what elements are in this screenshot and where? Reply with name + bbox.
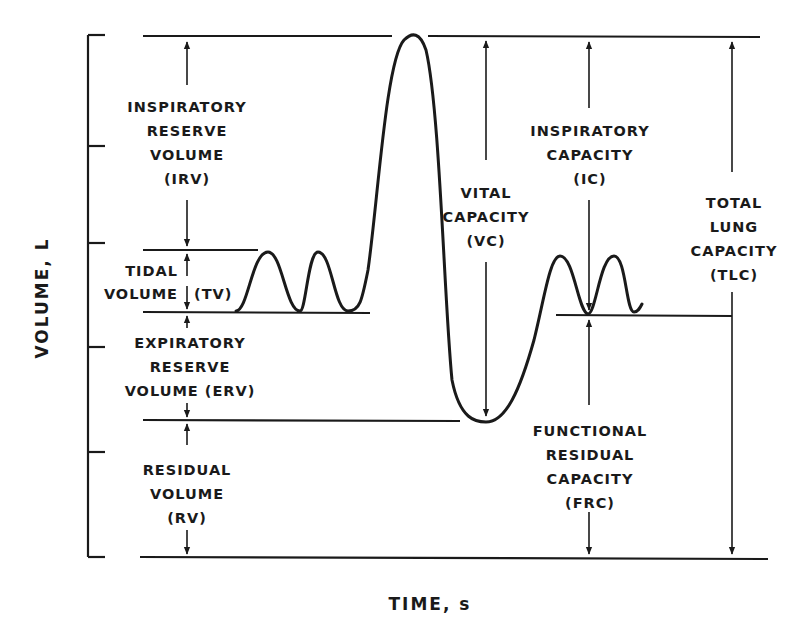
svg-text:RESIDUAL: RESIDUAL [143,462,232,478]
svg-text:VOLUME: VOLUME [150,147,224,163]
svg-text:LUNG: LUNG [710,219,759,235]
ic-label: INSPIRATORY CAPACITY (IC) [530,123,649,187]
svg-text:(FRC): (FRC) [565,495,615,511]
svg-text:VOLUME (ERV): VOLUME (ERV) [125,383,256,399]
svg-text:RESERVE: RESERVE [150,359,231,375]
svg-text:VITAL: VITAL [461,185,512,201]
svg-text:(IC): (IC) [573,171,606,187]
spirogram-curve [236,35,642,422]
svg-text:RESERVE: RESERVE [147,123,228,139]
svg-text:(TV): (TV) [194,286,232,302]
svg-text:TOTAL: TOTAL [706,195,762,211]
irv-label: INSPIRATORY RESERVE VOLUME (IRV) [127,99,246,187]
frc-label: FUNCTIONAL RESIDUAL CAPACITY (FRC) [533,423,648,511]
svg-text:TIDAL: TIDAL [125,263,178,279]
rv-label: RESIDUAL VOLUME (RV) [143,462,232,526]
svg-text:FUNCTIONAL: FUNCTIONAL [533,423,648,439]
lung-volumes-diagram: VOLUME, L INSPIRATORY R [0,0,801,642]
svg-text:(VC): (VC) [466,233,505,249]
tv-label: TIDAL VOLUME (TV) [104,263,233,302]
x-axis-label: TIME, s [389,594,472,614]
svg-text:RESIDUAL: RESIDUAL [546,447,635,463]
svg-text:(IRV): (IRV) [164,171,210,187]
svg-text:EXPIRATORY: EXPIRATORY [134,335,245,351]
svg-text:(RV): (RV) [167,510,207,526]
svg-text:(TLC): (TLC) [710,267,758,283]
svg-text:VOLUME: VOLUME [104,286,178,302]
svg-text:CAPACITY: CAPACITY [691,243,778,259]
vc-label: VITAL CAPACITY (VC) [443,185,530,249]
svg-text:CAPACITY: CAPACITY [547,471,634,487]
svg-text:INSPIRATORY: INSPIRATORY [127,99,246,115]
svg-text:VOLUME: VOLUME [150,486,224,502]
y-axis-label: VOLUME, L [32,237,52,358]
svg-text:CAPACITY: CAPACITY [443,209,530,225]
svg-text:CAPACITY: CAPACITY [547,147,634,163]
erv-label: EXPIRATORY RESERVE VOLUME (ERV) [125,335,256,399]
y-axis [88,35,105,557]
svg-text:INSPIRATORY: INSPIRATORY [530,123,649,139]
tlc-label: TOTAL LUNG CAPACITY (TLC) [691,195,778,283]
